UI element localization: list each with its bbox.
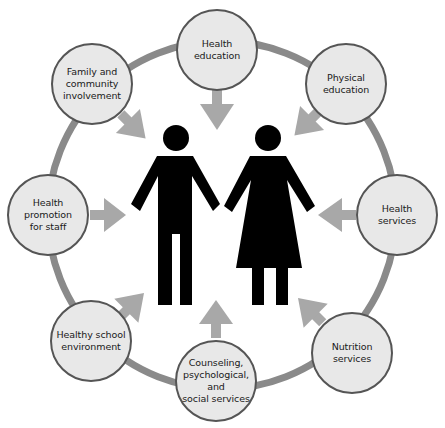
woman-figure-icon xyxy=(224,125,315,305)
arrow-from-health-promotion-staff xyxy=(90,198,126,232)
arrow-from-counseling xyxy=(199,300,233,338)
node-label: Counseling, psychological, and social se… xyxy=(182,357,250,405)
node-label: Health education xyxy=(194,38,240,62)
man-figure-icon xyxy=(131,125,220,305)
node-label: Nutrition services xyxy=(332,341,373,365)
node-label: Family and community involvement xyxy=(63,66,121,102)
node-healthy-school-environment: Healthy school environment xyxy=(50,300,132,382)
node-health-education: Health education xyxy=(176,9,258,91)
node-nutrition-services: Nutrition services xyxy=(311,312,393,394)
node-label: Physical education xyxy=(323,72,369,96)
coordinated-school-health-diagram: Health education Physical education Heal… xyxy=(0,0,445,428)
node-health-services: Health services xyxy=(356,174,438,256)
node-label: Health promotion for staff xyxy=(9,197,87,233)
node-label: Health services xyxy=(378,203,416,227)
arrow-from-health-services xyxy=(318,198,356,232)
arrow-from-health-education xyxy=(200,90,234,130)
node-health-promotion-staff: Health promotion for staff xyxy=(7,174,89,256)
arrows xyxy=(90,90,356,338)
node-physical-education: Physical education xyxy=(305,43,387,125)
node-family-community: Family and community involvement xyxy=(51,43,133,125)
node-counseling: Counseling, psychological, and social se… xyxy=(175,340,257,422)
node-label: Healthy school environment xyxy=(57,329,126,353)
